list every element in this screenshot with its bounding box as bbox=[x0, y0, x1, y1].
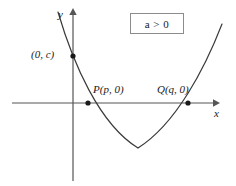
y-intercept-label: (0, c) bbox=[31, 49, 54, 60]
root-q-label: Q(q, 0) bbox=[157, 84, 189, 95]
condition-box: a > 0 bbox=[130, 13, 184, 34]
condition-text: a > 0 bbox=[145, 18, 170, 30]
y-axis-label: y bbox=[58, 9, 63, 20]
y-axis-arrowhead bbox=[69, 8, 76, 15]
point-root-p bbox=[85, 100, 90, 105]
x-axis-label: x bbox=[214, 108, 219, 119]
point-root-q bbox=[185, 100, 190, 105]
x-axis-arrowhead bbox=[213, 99, 220, 107]
parabola-figure: a > 0 y x (0, c) P(p, 0) Q(q, 0) bbox=[0, 0, 236, 186]
point-y-intercept bbox=[70, 53, 75, 58]
root-p-label: P(p, 0) bbox=[93, 84, 124, 95]
